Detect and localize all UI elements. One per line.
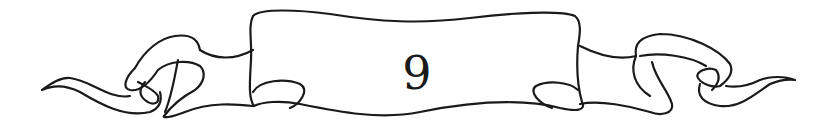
banner-number: 9 <box>395 48 439 98</box>
ribbon-banner: 9 <box>0 0 834 138</box>
